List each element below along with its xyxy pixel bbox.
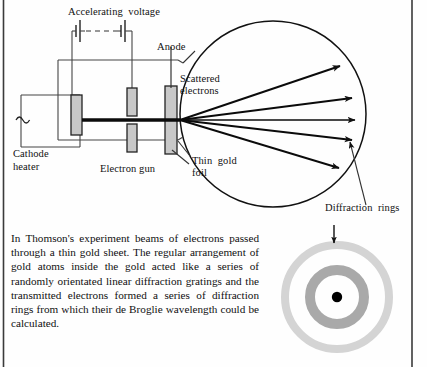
- label-anode: Anode: [157, 41, 186, 53]
- caption-text: In Thomson's experiment beams of electro…: [11, 231, 259, 330]
- label-thin-gold-foil-line1: Thin gold: [192, 155, 237, 167]
- label-cathode-heater-line1: Cathode: [13, 148, 49, 160]
- label-scattered-electrons-line1: Scattered: [180, 73, 220, 85]
- vacuum-chamber-circle: [180, 21, 366, 207]
- caption-block: In Thomson's experiment beams of electro…: [11, 231, 259, 330]
- anode-plate-upper: [127, 88, 137, 116]
- anode-plate-lower: [127, 124, 137, 152]
- label-scattered-electrons-line2: electrons: [180, 85, 219, 97]
- label-accelerating-voltage: Accelerating voltage: [68, 6, 160, 18]
- figure-canvas: Accelerating voltage Anode Scattered ele…: [0, 0, 427, 367]
- label-diffraction-rings: Diffraction rings: [325, 202, 400, 214]
- diffraction-ring-pattern: [285, 225, 389, 349]
- label-thin-gold-foil-line2: foil: [192, 167, 207, 179]
- label-electron-gun: Electron gun: [100, 163, 155, 175]
- cathode-electrode: [71, 95, 82, 135]
- accelerating-voltage-circuit: [72, 20, 132, 92]
- label-cathode-heater-line2: heater: [13, 161, 39, 173]
- diffraction-center-spot: [332, 292, 342, 302]
